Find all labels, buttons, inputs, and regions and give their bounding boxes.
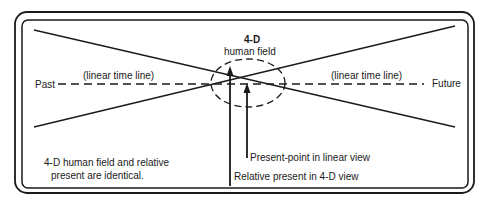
relative-present-label: Relative present in 4-D view xyxy=(234,171,359,182)
field-title-line1: 4-D xyxy=(244,34,260,45)
arrowhead-icon xyxy=(227,66,234,76)
present-point-label: Present-point in linear view xyxy=(250,152,370,163)
note-line1: 4-D human field and relative xyxy=(44,157,169,168)
human-field-ellipse xyxy=(211,59,285,107)
linear-time-line-label-left: (linear time line) xyxy=(83,70,154,81)
field-title-line2: human field xyxy=(224,46,276,57)
future-label: Future xyxy=(432,78,461,89)
past-label: Past xyxy=(35,79,55,90)
linear-time-line-label-right: (linear time line) xyxy=(331,70,402,81)
note-line2: present are identical. xyxy=(51,170,144,181)
